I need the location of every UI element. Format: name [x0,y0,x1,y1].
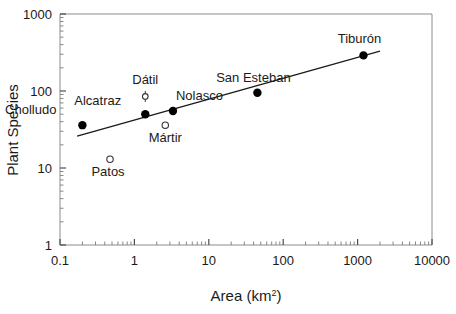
x-tick-label: 10 [202,253,216,268]
y-tick-label: 1 [45,238,52,253]
x-tick-label: 1 [131,253,138,268]
x-axis-title-main: Area (km [211,287,272,304]
y-axis-tick-labels: 1101001000 [23,7,52,253]
marker-filled [253,89,261,97]
x-axis-tick-labels: 0.1110100100010000 [51,253,450,268]
x-tick-label: 10000 [414,253,450,268]
data-point: Mártir [149,122,183,145]
point-label: Mártir [149,130,183,145]
x-axis-title-close: ) [276,287,281,304]
marker-open [142,94,148,100]
x-axis-title: Area (km2) [211,287,282,304]
data-points-group: CholludoPatosDátilAlcatrazMártirNolascoS… [5,31,381,179]
x-tick-label: 100 [272,253,294,268]
plot-frame [60,14,432,245]
point-label: Nolasco [176,88,223,103]
marker-filled [169,107,177,115]
data-point: Alcatraz [74,93,149,118]
plot-svg: 1101001000 0.1110100100010000 CholludoPa… [0,0,456,314]
y-tick-label: 10 [38,161,52,176]
x-tick-label: 1000 [343,253,372,268]
y-axis-title: Plant Species [4,84,21,176]
x-tick-label: 0.1 [51,253,69,268]
x-axis-ticks [60,239,432,245]
marker-filled [359,51,367,59]
marker-filled [78,121,86,129]
point-label: San Esteban [216,70,290,85]
data-point: Nolasco [169,88,223,115]
trend-line [77,51,380,136]
data-point: Tiburón [338,31,382,59]
y-tick-label: 1000 [23,7,52,22]
data-point: San Esteban [216,70,290,97]
marker-open [107,156,113,162]
point-label: Alcatraz [74,93,121,108]
marker-filled [141,110,149,118]
point-label: Dátil [132,72,158,87]
point-label: Patos [91,164,125,179]
scatter-plot-figure: 1101001000 0.1110100100010000 CholludoPa… [0,0,456,314]
y-axis-ticks [60,14,66,245]
data-point: Patos [91,156,125,179]
data-point: Dátil [132,72,158,102]
y-tick-label: 100 [30,84,52,99]
marker-open [162,122,168,128]
regression-line [77,51,380,136]
point-label: Tiburón [338,31,382,46]
